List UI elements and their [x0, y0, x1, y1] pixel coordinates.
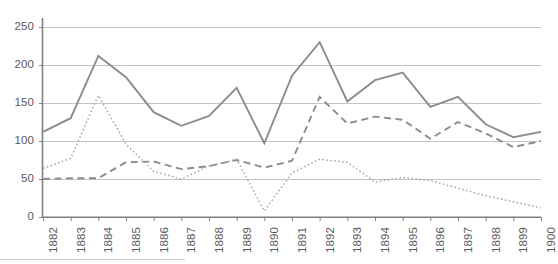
series-line-dotted — [43, 95, 541, 211]
bottom-divider-rule — [0, 259, 185, 260]
x-tick-label: 1888 — [214, 227, 226, 253]
x-tick-label: 1895 — [408, 227, 420, 253]
y-tick-label: 0 — [0, 211, 34, 223]
x-tick-label: 1898 — [491, 227, 503, 253]
y-tick-label: 100 — [0, 135, 34, 147]
y-tick-label: 150 — [0, 97, 34, 109]
x-tick-label: 1889 — [242, 227, 254, 253]
x-tick-label: 1890 — [269, 227, 281, 253]
series-line-dashed — [43, 97, 541, 179]
x-tick-label: 1897 — [463, 227, 475, 253]
x-tick-label: 1892 — [325, 227, 337, 253]
x-tick-label: 1887 — [186, 227, 198, 253]
y-tick-label: 50 — [0, 173, 34, 185]
x-tick-label: 1891 — [297, 227, 309, 253]
x-tick-label: 1899 — [518, 227, 530, 253]
x-tick-label: 1894 — [380, 227, 392, 253]
x-tick-label: 1886 — [159, 227, 171, 253]
x-tick-label: 1893 — [352, 227, 364, 253]
x-tick-label: 1884 — [103, 227, 115, 253]
gridlines — [43, 28, 541, 180]
y-tick-label: 200 — [0, 59, 34, 71]
x-tick-label: 1885 — [131, 227, 143, 253]
series-lines — [43, 42, 541, 211]
x-tick-label: 1883 — [76, 227, 88, 253]
x-tick-label: 1900 — [546, 227, 558, 253]
x-tick-label: 1896 — [435, 227, 447, 253]
x-tick-label: 1882 — [48, 227, 60, 253]
y-tick-label: 250 — [0, 21, 34, 33]
